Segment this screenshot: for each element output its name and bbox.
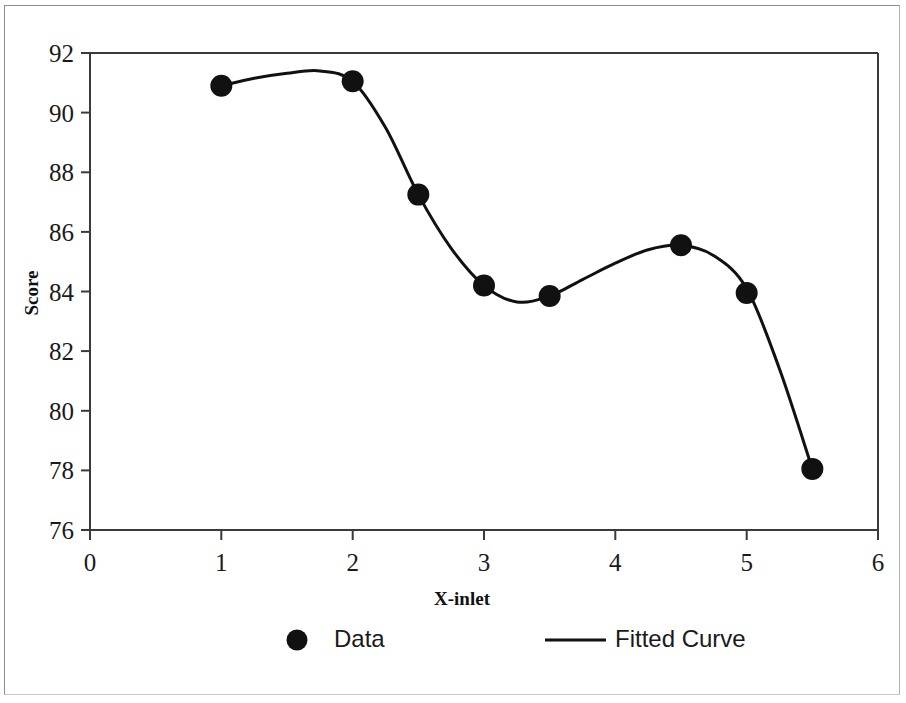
data-point-marker — [801, 458, 823, 480]
legend-label-data: Data — [334, 625, 385, 652]
y-axis-ticks — [81, 53, 90, 530]
x-axis-ticks — [90, 530, 878, 540]
data-point-marker — [342, 70, 364, 92]
x-axis-tick-labels: 0 1 2 3 4 5 6 — [84, 549, 885, 576]
y-tick-label: 92 — [49, 40, 74, 67]
x-tick-label: 6 — [872, 549, 885, 576]
x-tick-label: 2 — [346, 549, 359, 576]
legend-data-marker-icon — [287, 630, 308, 651]
score-vs-x-inlet-chart: 76 78 80 82 84 86 88 90 92 0 1 2 3 4 — [0, 0, 906, 703]
figure-container: 76 78 80 82 84 86 88 90 92 0 1 2 3 4 — [0, 0, 906, 703]
x-tick-label: 3 — [478, 549, 491, 576]
x-tick-label: 1 — [215, 549, 228, 576]
data-point-marker — [210, 75, 232, 97]
data-point-marker — [736, 282, 758, 304]
y-axis-title: Score — [21, 270, 42, 315]
x-tick-label: 0 — [84, 549, 97, 576]
x-axis-title: X-inlet — [434, 588, 491, 609]
y-tick-label: 80 — [49, 398, 74, 425]
y-tick-label: 82 — [49, 338, 74, 365]
y-tick-label: 88 — [49, 159, 74, 186]
data-point-marker — [539, 285, 561, 307]
x-tick-label: 5 — [740, 549, 753, 576]
legend-label-fitted-curve: Fitted Curve — [615, 625, 746, 652]
y-tick-label: 86 — [49, 219, 74, 246]
y-tick-label: 76 — [49, 517, 74, 544]
data-point-marker — [670, 234, 692, 256]
data-point-marker — [473, 275, 495, 297]
y-axis-tick-labels: 76 78 80 82 84 86 88 90 92 — [49, 40, 75, 544]
y-tick-label: 78 — [49, 457, 74, 484]
y-tick-label: 90 — [49, 100, 74, 127]
x-tick-label: 4 — [609, 549, 622, 576]
chart-legend: Data Fitted Curve — [287, 625, 746, 652]
data-point-markers — [210, 70, 823, 480]
y-tick-label: 84 — [49, 279, 75, 306]
data-point-marker — [407, 184, 429, 206]
fitted-curve-line — [221, 71, 812, 469]
